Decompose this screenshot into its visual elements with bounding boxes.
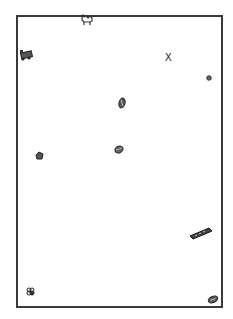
gem-icon[interactable]	[35, 151, 44, 160]
picture-frame	[16, 15, 223, 308]
x-marker: X	[165, 52, 172, 63]
harmonica-icon[interactable]	[189, 226, 213, 240]
camel-icon[interactable]	[80, 14, 94, 26]
pine-cone-icon[interactable]	[207, 295, 219, 304]
seed-pod-icon[interactable]	[118, 97, 126, 109]
flower-icon[interactable]	[26, 287, 35, 296]
ball-icon[interactable]	[206, 75, 212, 81]
shell-icon[interactable]	[114, 145, 124, 154]
toy-train-icon[interactable]	[18, 49, 34, 61]
